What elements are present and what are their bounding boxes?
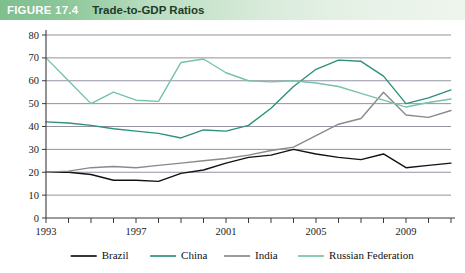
x-tick-label: 2001 (216, 226, 237, 237)
x-tick-label: 1997 (126, 226, 147, 237)
legend-label-russian-federation: Russian Federation (329, 249, 414, 261)
y-tick-label: 60 (29, 75, 40, 86)
y-tick-label: 40 (29, 121, 40, 132)
data-series (46, 58, 451, 182)
y-tick-label: 0 (34, 213, 39, 224)
y-tick-label: 30 (29, 144, 40, 155)
y-tick-label: 20 (29, 167, 40, 178)
y-axis-ticks: 01020304050607080 (29, 30, 47, 224)
line-chart: 01020304050607080 19931997200120052009 B… (0, 20, 465, 273)
legend-label-india: India (255, 249, 278, 261)
legend-label-brazil: Brazil (102, 249, 129, 261)
y-tick-label: 50 (29, 98, 40, 109)
x-tick-label: 2009 (396, 226, 417, 237)
y-tick-label: 10 (29, 190, 40, 201)
figure-title: Trade-to-GDP Ratios (92, 4, 204, 16)
series-line-india (46, 92, 451, 172)
chart-legend: BrazilChinaIndiaRussian Federation (71, 249, 415, 261)
legend-label-china: China (181, 249, 207, 261)
figure-number-badge: FIGURE 17.4 (0, 4, 78, 16)
gridlines (46, 35, 451, 195)
y-tick-label: 80 (29, 30, 40, 41)
x-axis-ticks: 19931997200120052009 (36, 218, 452, 237)
chart-container: 01020304050607080 19931997200120052009 B… (0, 20, 465, 273)
series-line-brazil (46, 149, 451, 181)
figure-header-band: FIGURE 17.4 Trade-to-GDP Ratios (0, 0, 465, 20)
y-tick-label: 70 (29, 52, 40, 63)
x-tick-label: 1993 (36, 226, 57, 237)
x-tick-label: 2005 (306, 226, 327, 237)
